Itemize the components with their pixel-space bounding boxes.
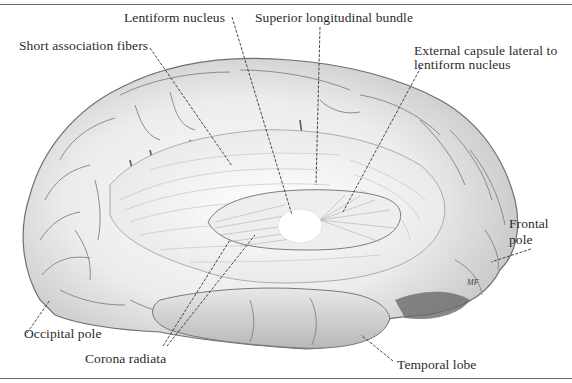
label-external-capsule-line2: lentiform nucleus: [414, 57, 511, 72]
label-short-association-fibers: Short association fibers: [19, 38, 148, 53]
label-corona-radiata: Corona radiata: [85, 351, 166, 366]
label-external-capsule-line1: External capsule lateral to: [414, 43, 557, 58]
bottom-rule: [0, 378, 572, 379]
temporal-lobe-shape: [153, 288, 390, 348]
label-occipital-pole: Occipital pole: [24, 326, 102, 341]
label-lentiform-nucleus: Lentiform nucleus: [124, 10, 225, 25]
label-frontal-pole-line2: pole: [509, 232, 533, 247]
artist-signature: MF: [466, 278, 479, 287]
label-temporal-lobe: Temporal lobe: [397, 357, 476, 372]
label-frontal-pole-line1: Frontal: [509, 216, 549, 231]
label-superior-longitudinal-bundle: Superior longitudinal bundle: [255, 10, 413, 25]
lentiform-nucleus-shape: [278, 209, 322, 243]
